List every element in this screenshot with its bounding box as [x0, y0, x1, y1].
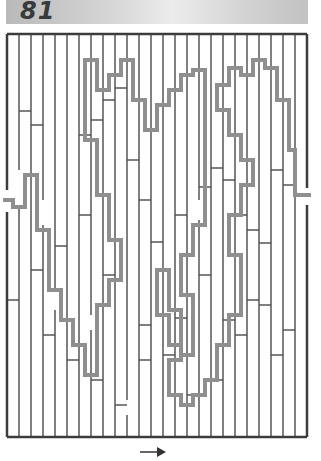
arrow-right-icon	[157, 447, 166, 457]
solution-path	[3, 60, 311, 405]
maze-board	[0, 0, 321, 461]
